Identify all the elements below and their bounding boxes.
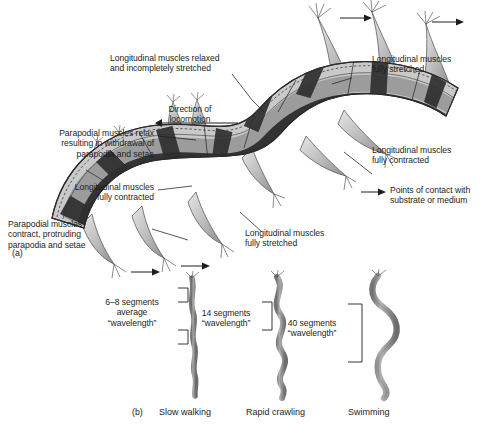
callout-longitudinal-muscles-fully-contracted-left: Longitudinal muscles fully contracted bbox=[2, 182, 154, 203]
panel-b-label: (b) bbox=[132, 407, 143, 417]
panel-a-label: (a) bbox=[12, 248, 23, 258]
parapodium-bottom-2 bbox=[132, 206, 176, 272]
setae-icon bbox=[273, 194, 285, 208]
setae-icon bbox=[167, 94, 180, 102]
caption-swimming: Swimming bbox=[348, 407, 390, 417]
callout-longitudinal-muscles-fully-contracted-right: Longitudinal muscles fully contracted bbox=[372, 145, 492, 166]
bracket-swimming bbox=[348, 304, 362, 362]
callout-parapodial-muscles-contract: Parapodial muscles contract, protruding … bbox=[8, 219, 138, 250]
worm-swimming bbox=[372, 269, 397, 398]
contact-arrow-icon bbox=[131, 269, 160, 276]
legend-points-of-contact: Points of contact with substrate or medi… bbox=[390, 185, 494, 206]
parapodium-right-3 bbox=[242, 148, 285, 208]
callout-longitudinal-muscles-relaxed: Longitudinal muscles relaxed and incompl… bbox=[110, 53, 286, 74]
legend-arrow-icon bbox=[360, 186, 388, 198]
bracket-rapid bbox=[262, 302, 272, 330]
contact-arrow-icon bbox=[432, 19, 464, 26]
parapodium-bottom-3 bbox=[188, 192, 234, 258]
parapodium-right-1 bbox=[300, 136, 356, 190]
bracket-slow-2 bbox=[178, 330, 188, 344]
setae-icon bbox=[221, 244, 234, 258]
setae-icon bbox=[363, 0, 386, 12]
bracket-label-swimming: 40 segments “wavelength” bbox=[276, 318, 348, 339]
setae-icon bbox=[191, 92, 204, 100]
bracket-label-rapid-crawling: 14 segments “wavelength” bbox=[190, 308, 262, 329]
callout-longitudinal-muscles-fully-stretched-bottom: Longitudinal muscles fully stretched bbox=[245, 228, 365, 249]
head-setae-icon bbox=[372, 269, 386, 276]
bracket-slow-1 bbox=[178, 288, 188, 302]
callout-parapodial-muscles-relax: Parapodial muscles relax resulting in wi… bbox=[2, 128, 154, 159]
caption-rapid-crawling: Rapid crawling bbox=[246, 407, 305, 417]
setae-icon bbox=[344, 176, 356, 190]
setae-icon bbox=[112, 264, 126, 278]
contact-arrow-icon bbox=[340, 15, 372, 22]
caption-slow-walking: Slow walking bbox=[159, 407, 211, 417]
callout-direction-of-locomotion: Direction of locomotion bbox=[150, 104, 230, 125]
setae-icon bbox=[162, 258, 176, 272]
locomotion-figure: Longitudinal muscles relaxed and incompl… bbox=[0, 0, 494, 433]
setae-icon bbox=[309, 3, 331, 18]
callout-longitudinal-muscles-fully-stretched-top: Longitudinal muscles fully stretched bbox=[372, 54, 492, 75]
bracket-label-slow-walking: 6–8 segments average “wavelength” bbox=[88, 297, 176, 328]
contact-arrow-icon bbox=[181, 263, 210, 270]
